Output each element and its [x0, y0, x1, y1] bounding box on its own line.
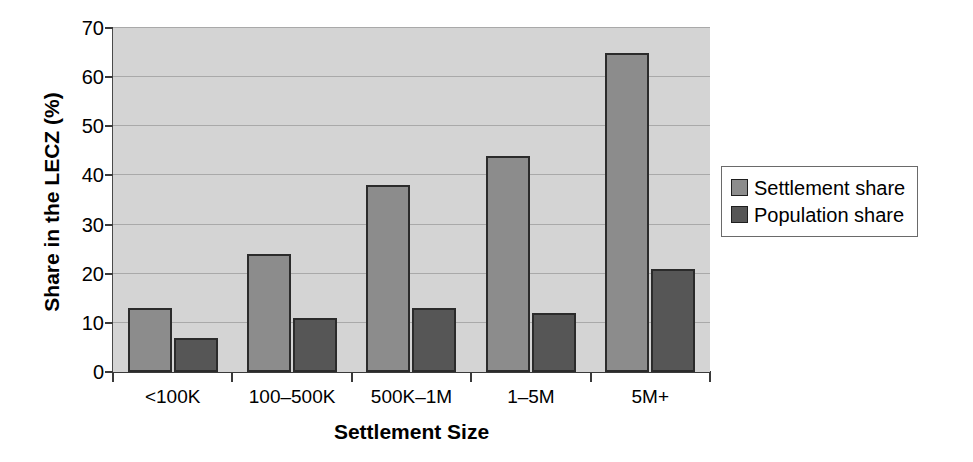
- bar-group: [471, 28, 590, 372]
- bar-group: [113, 28, 232, 372]
- y-axis-tick-label: 0: [58, 362, 104, 382]
- bar-population-share[interactable]: [532, 313, 576, 372]
- x-axis-tick-label: 5M+: [632, 386, 670, 408]
- x-axis-tick-mark: [231, 373, 233, 382]
- bar-population-share[interactable]: [651, 269, 695, 372]
- x-axis-title: Settlement Size: [113, 420, 710, 444]
- x-axis-tick-mark: [470, 373, 472, 382]
- legend-swatch-icon: [731, 206, 748, 223]
- x-axis-tick-mark: [590, 373, 592, 382]
- y-axis-tick-mark: [105, 27, 113, 29]
- y-axis-tick-mark: [105, 224, 113, 226]
- y-axis-tick-mark: [105, 273, 113, 275]
- y-axis-tick-label: 70: [58, 18, 104, 38]
- y-axis-tick-labels: 010203040506070: [52, 28, 104, 372]
- x-axis-tick-mark: [709, 373, 711, 382]
- bar-settlement-share[interactable]: [128, 308, 172, 372]
- x-axis-tick-label: 1–5M: [507, 386, 555, 408]
- bar-settlement-share[interactable]: [366, 185, 410, 372]
- bar-group: [232, 28, 351, 372]
- y-axis-tick-label: 40: [58, 165, 104, 185]
- bar-population-share[interactable]: [412, 308, 456, 372]
- y-axis-tick-mark: [105, 76, 113, 78]
- y-axis-tick-mark: [105, 125, 113, 127]
- legend-label: Settlement share: [754, 178, 905, 198]
- bar-settlement-share[interactable]: [605, 53, 649, 372]
- y-axis-tick-label: 10: [58, 313, 104, 333]
- x-axis-tick-mark: [351, 373, 353, 382]
- x-axis-tick-mark: [112, 373, 114, 382]
- x-axis-tick-label: <100K: [145, 386, 200, 408]
- x-axis-tick-label: 500K–1M: [371, 386, 452, 408]
- y-axis-tick-mark: [105, 174, 113, 176]
- bar-population-share[interactable]: [293, 318, 337, 372]
- y-axis-tick-label: 60: [58, 67, 104, 87]
- bar-population-share[interactable]: [174, 338, 218, 372]
- bar-group: [591, 28, 710, 372]
- bar-chart: Share in the LECZ (%) 010203040506070 <1…: [0, 0, 973, 462]
- bar-settlement-share[interactable]: [486, 156, 530, 372]
- bar-group: [352, 28, 471, 372]
- legend: Settlement sharePopulation share: [721, 166, 918, 237]
- y-axis-tick-mark: [105, 322, 113, 324]
- bar-settlement-share[interactable]: [247, 254, 291, 372]
- bars-layer: [113, 28, 710, 372]
- legend-swatch-icon: [731, 179, 748, 196]
- y-axis-tick-label: 50: [58, 116, 104, 136]
- legend-item[interactable]: Population share: [731, 201, 905, 228]
- x-axis-tick-label: 100–500K: [249, 386, 336, 408]
- y-axis-tick-label: 20: [58, 264, 104, 284]
- legend-item[interactable]: Settlement share: [731, 174, 905, 201]
- y-axis-tick-label: 30: [58, 215, 104, 235]
- legend-label: Population share: [754, 205, 904, 225]
